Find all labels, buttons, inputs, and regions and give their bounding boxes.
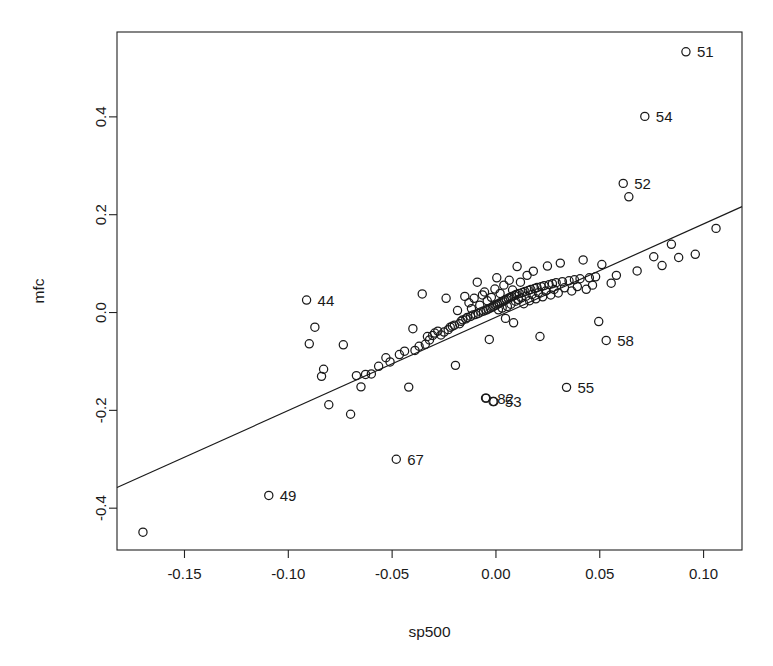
regression-fit-line: [117, 207, 742, 488]
data-point: [598, 260, 606, 268]
x-tick-label: 0.05: [585, 565, 614, 582]
data-point: [473, 278, 481, 286]
x-axis: -0.15-0.10-0.050.000.050.10: [167, 550, 718, 582]
data-point: [470, 294, 478, 302]
point-label-51: 51: [697, 43, 714, 60]
data-point: [501, 314, 509, 322]
data-point: [675, 253, 683, 261]
data-point: [493, 274, 501, 282]
data-point: [562, 383, 570, 391]
data-point: [265, 491, 273, 499]
point-label-49: 49: [280, 487, 297, 504]
data-point: [625, 193, 633, 201]
x-tick-label: 0.00: [481, 565, 510, 582]
point-label-54: 54: [656, 108, 673, 125]
data-points: [139, 48, 720, 537]
regression-line: [117, 207, 742, 488]
data-point: [573, 283, 581, 291]
data-point: [633, 267, 641, 275]
data-point: [305, 340, 313, 348]
data-point: [339, 341, 347, 349]
data-point: [491, 285, 499, 293]
y-tick-label: 0.2: [93, 204, 110, 225]
data-point: [405, 383, 413, 391]
x-tick-label: 0.10: [689, 565, 718, 582]
data-point: [418, 290, 426, 298]
data-point: [556, 259, 564, 267]
plot-border: [117, 32, 742, 550]
data-point: [509, 319, 517, 327]
data-point: [311, 323, 319, 331]
data-point: [595, 317, 603, 325]
data-point: [658, 261, 666, 269]
data-point: [409, 325, 417, 333]
data-point: [536, 332, 544, 340]
y-axis-title: mfc: [30, 278, 47, 303]
data-point: [691, 250, 699, 258]
y-axis: -0.4-0.20.00.20.4: [93, 106, 118, 521]
data-point: [667, 240, 675, 248]
data-point: [513, 262, 521, 270]
scatter-plot-figure: 51545244585582536749 -0.15-0.10-0.050.00…: [0, 0, 773, 666]
data-point: [347, 410, 355, 418]
data-point: [682, 48, 690, 56]
point-label-67: 67: [407, 451, 424, 468]
plot-frame: [117, 32, 742, 550]
data-point: [451, 361, 459, 369]
x-tick-label: -0.10: [271, 565, 305, 582]
data-point: [500, 281, 508, 289]
data-point: [357, 383, 365, 391]
x-axis-title: sp500: [408, 623, 451, 640]
data-point: [392, 455, 400, 463]
point-label-52: 52: [634, 175, 651, 192]
data-point: [602, 336, 610, 344]
data-point: [712, 224, 720, 232]
chart-canvas: 51545244585582536749 -0.15-0.10-0.050.00…: [0, 0, 773, 666]
data-point: [529, 267, 537, 275]
data-point: [588, 281, 596, 289]
data-point: [485, 335, 493, 343]
data-point: [579, 256, 587, 264]
data-point: [568, 287, 576, 295]
data-point: [619, 179, 627, 187]
data-point: [139, 528, 147, 536]
data-point: [505, 276, 513, 284]
data-point: [650, 253, 658, 261]
data-point: [302, 296, 310, 304]
point-label-44: 44: [318, 292, 335, 309]
point-label-55: 55: [578, 379, 595, 396]
point-label-53: 53: [505, 393, 522, 410]
data-point: [612, 271, 620, 279]
data-point: [516, 278, 524, 286]
data-point: [375, 362, 383, 370]
data-point: [607, 279, 615, 287]
y-tick-label: -0.2: [93, 397, 110, 423]
data-point: [543, 262, 551, 270]
data-point: [352, 372, 360, 380]
y-tick-label: -0.4: [93, 495, 110, 521]
data-point: [641, 112, 649, 120]
data-point: [453, 306, 461, 314]
point-label-58: 58: [617, 332, 634, 349]
data-point: [325, 401, 333, 409]
x-tick-label: -0.15: [167, 565, 201, 582]
x-tick-label: -0.05: [375, 565, 409, 582]
y-tick-label: 0.4: [93, 106, 110, 127]
data-point: [442, 294, 450, 302]
y-tick-label: 0.0: [93, 302, 110, 323]
